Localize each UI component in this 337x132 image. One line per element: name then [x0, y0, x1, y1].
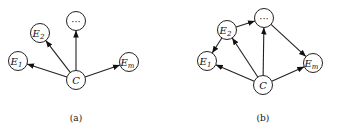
caption-a: (a): [70, 113, 82, 123]
edge-c-to-e1: [27, 64, 67, 77]
edge-c-to-em: [85, 65, 120, 77]
edge-c-to-e2: [46, 41, 70, 73]
node-label: ···: [259, 13, 269, 24]
node-c: C: [254, 76, 273, 95]
node-dots: ···: [67, 12, 86, 31]
diagram-a: E1E2···CEm (a): [9, 12, 139, 124]
diagram-b: E1E2···CEm (b): [198, 9, 323, 124]
node-em: Em: [120, 53, 139, 72]
node-e2: E2: [218, 21, 237, 40]
node-e1: E1: [198, 52, 217, 71]
diagram-canvas: E1E2···CEm (a) E1E2···CEm (b): [0, 0, 337, 132]
node-c: C: [67, 71, 86, 90]
edge-c-to-e1: [216, 65, 255, 82]
node-label: ···: [71, 16, 81, 27]
edge-c-to-em: [272, 67, 305, 81]
node-dots: ···: [255, 9, 274, 28]
node-e1: E1: [9, 52, 28, 71]
edge-c-to-e2: [232, 38, 258, 77]
nodes-b: E1E2···CEm: [198, 9, 323, 95]
nodes-a: E1E2···CEm: [9, 12, 139, 90]
node-label: C: [72, 75, 80, 86]
node-em: Em: [304, 54, 323, 73]
edge-e2-to-e1: [212, 38, 222, 53]
caption-b: (b): [257, 113, 270, 123]
node-label: C: [259, 80, 267, 91]
edge-c-to-dots: [263, 27, 264, 75]
edge-dots-to-em: [271, 24, 306, 56]
node-e2: E2: [31, 24, 50, 43]
edge-e2-to-dots: [236, 21, 255, 27]
